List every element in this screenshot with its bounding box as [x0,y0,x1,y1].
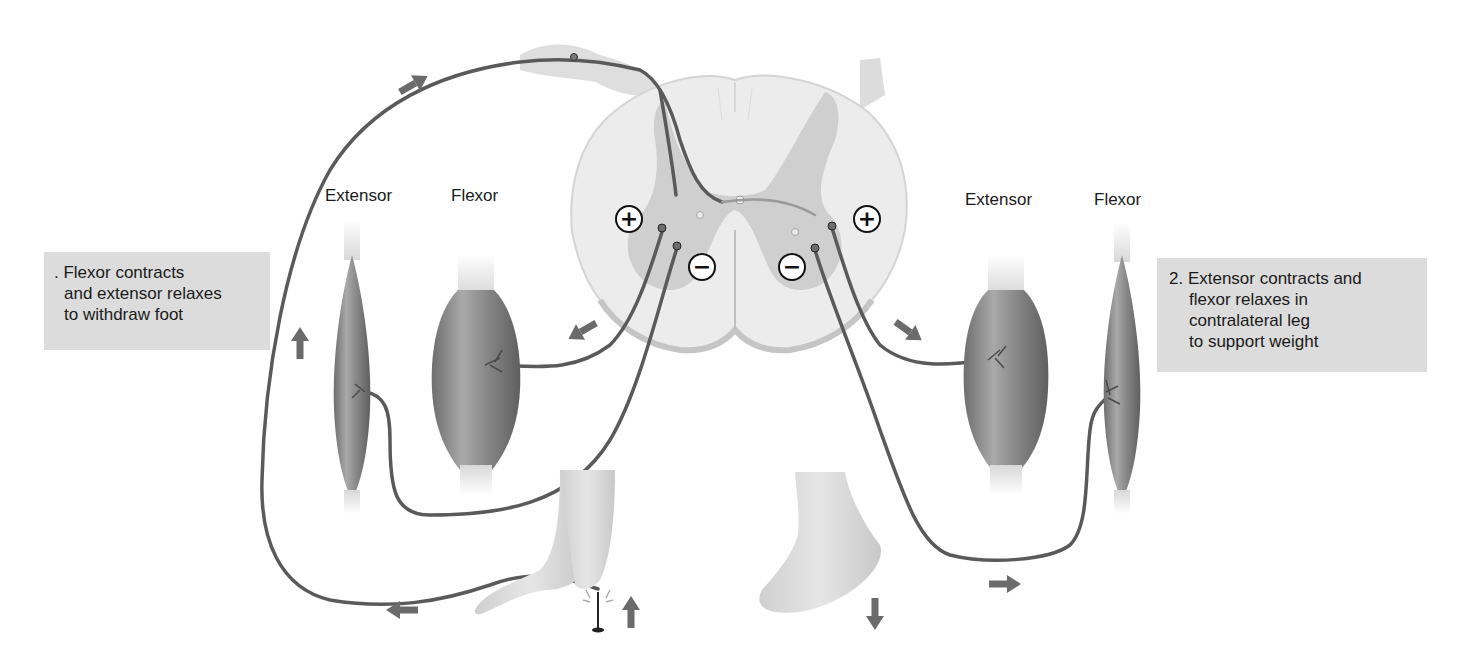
arrow-down-left-icon [564,315,601,347]
crossed-extensor-reflex-diagram: Extensor Flexor Extensor Flexor + − + − … [0,0,1467,664]
left-foot-withdrawing [475,470,615,614]
left-callout: . Flexor contracts and extensor relaxes … [44,252,270,350]
left-extensor-muscle [334,220,371,514]
left-excitatory-sign: + [615,205,643,233]
left-inhibitory-sign: − [688,253,716,281]
right-extensor-muscle [964,255,1049,495]
right-extensor-label: Extensor [965,190,1032,210]
ganglion-cell-body [571,54,578,61]
arrow-down-right-icon [890,315,927,348]
right-callout-line-1: 2. Extensor contracts and [1169,268,1413,289]
left-flexor-label: Flexor [451,186,498,206]
right-excitatory-sign: + [853,205,881,233]
left-callout-line-1: . Flexor contracts [54,262,256,283]
arrow-up-icon [622,596,640,628]
left-callout-line-2: and extensor relaxes [54,283,256,304]
left-callout-line-3: to withdraw foot [54,304,256,325]
right-callout-line-4: to support weight [1169,331,1413,352]
right-inhibitory-sign: − [778,253,806,281]
arrow-up-icon [291,327,309,359]
dorsal-root-right [860,58,885,110]
arrow-right-icon [989,575,1021,593]
right-flexor-label: Flexor [1094,190,1141,210]
right-callout-line-3: contralateral leg [1169,310,1413,331]
right-callout: 2. Extensor contracts and flexor relaxes… [1157,258,1427,372]
tack-stimulus [583,590,613,633]
right-callout-line-2: flexor relaxes in [1169,289,1413,310]
arrow-down-icon [866,598,884,630]
left-extensor-label: Extensor [325,186,392,206]
left-flexor-muscle [432,255,521,495]
right-flexor-muscle [1104,222,1141,514]
right-foot-supporting [759,472,881,613]
